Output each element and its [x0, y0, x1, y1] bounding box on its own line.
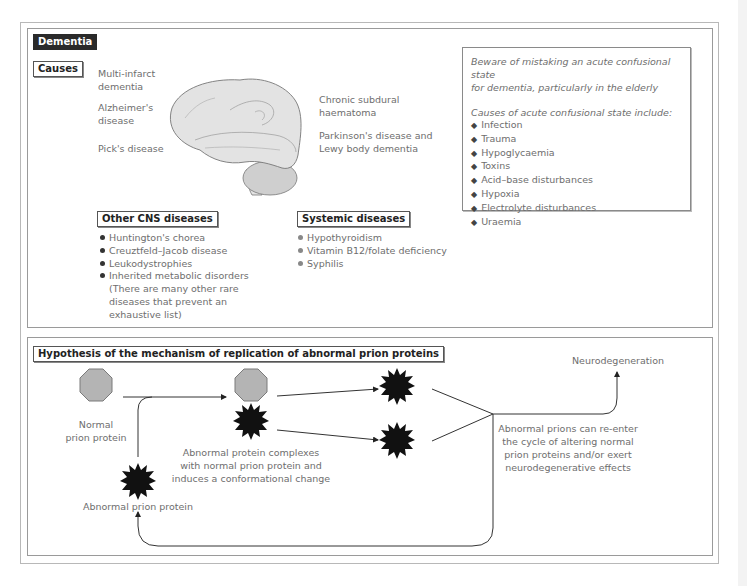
bullet-icon [100, 248, 105, 253]
bullet-icon [298, 261, 303, 266]
complex-label-3: induces a conformational change [166, 472, 336, 485]
list-item: ◆Acid–base disturbances [471, 174, 682, 188]
list-note: (There are many other rare [100, 283, 249, 296]
arrow-complex-to-top-star [277, 389, 378, 396]
complex-normal-prion-octagon [235, 369, 267, 401]
diamond-bullet-icon: ◆ [471, 190, 477, 199]
normal-prion-octagon [80, 369, 112, 401]
reenter-label-1: Abnormal prions can re-enter [498, 422, 638, 435]
list-note: diseases that prevent an [100, 296, 249, 309]
list-item: Creuztfeld–Jacob disease [100, 245, 249, 258]
systemic-title: Systemic diseases [297, 211, 410, 227]
arrow-to-neurodegeneration [493, 372, 617, 414]
causes-label: Causes [33, 61, 83, 77]
normal-prion-label-1: Normal [66, 418, 126, 431]
acute-confusion-info-box: Beware of mistaking an acute confusional… [462, 47, 691, 211]
label-multi-infarct: Multi-infarct [98, 67, 155, 80]
label-parkinsons-2: Lewy body dementia [319, 142, 418, 155]
acute-causes-list: ◆Infection ◆Trauma ◆Hypoglycaemia ◆Toxin… [471, 119, 682, 229]
list-item: ◆Infection [471, 119, 682, 133]
arrow-abnormal-to-complex [138, 397, 152, 457]
reenter-label-2: the cycle of altering normal [498, 435, 638, 448]
diamond-bullet-icon: ◆ [471, 218, 477, 227]
line-bottom-star-to-junction [432, 414, 493, 441]
list-note: exhaustive list) [100, 309, 249, 322]
complex-label-2: with normal prion protein and [176, 459, 326, 472]
label-subdural-2: haematoma [319, 106, 376, 119]
bullet-icon [100, 261, 105, 266]
brain-illustration [170, 79, 301, 195]
warning-line-2: for dementia, particularly in the elderl… [471, 81, 682, 94]
top-right-abnormal-prion-star-icon [379, 368, 415, 405]
abnormal-prion-star-icon [120, 463, 156, 500]
neurodegeneration-label: Neurodegeneration [572, 354, 664, 367]
label-alzheimers: Alzheimer's [98, 101, 153, 114]
list-item: Syphilis [298, 258, 447, 271]
list-item: ◆Toxins [471, 160, 682, 174]
diamond-bullet-icon: ◆ [471, 121, 477, 130]
other-cns-title: Other CNS diseases [97, 211, 218, 227]
bottom-right-abnormal-prion-star-icon [379, 422, 415, 459]
list-item: ◆Uraemia [471, 216, 682, 230]
list-item: ◆Trauma [471, 133, 682, 147]
label-multi-infarct-2: dementia [98, 80, 143, 93]
abnormal-prion-label: Abnormal prion protein [78, 500, 198, 513]
list-item: Huntington's chorea [100, 232, 249, 245]
reenter-label-3: prion proteins and/or exert [498, 448, 638, 461]
bullet-icon [298, 248, 303, 253]
complex-label-1: Abnormal protein complexes [176, 446, 326, 459]
diamond-bullet-icon: ◆ [471, 204, 477, 213]
list-item: Vitamin B12/folate deficiency [298, 245, 447, 258]
list-item: Leukodystrophies [100, 258, 249, 271]
list-item: Inherited metabolic disorders [100, 270, 249, 283]
diamond-bullet-icon: ◆ [471, 176, 477, 185]
label-alzheimers-2: disease [98, 114, 134, 127]
list-item: ◆Hypoxia [471, 188, 682, 202]
systemic-list: Hypothyroidism Vitamin B12/folate defici… [298, 232, 447, 270]
normal-prion-label-2: prion protein [56, 431, 136, 444]
arrow-complex-to-bottom-star [277, 430, 378, 440]
list-item: ◆Hypoglycaemia [471, 147, 682, 161]
diamond-bullet-icon: ◆ [471, 135, 477, 144]
dementia-title: Dementia [33, 34, 97, 50]
bullet-icon [100, 235, 105, 240]
diamond-bullet-icon: ◆ [471, 149, 477, 158]
label-subdural: Chronic subdural [319, 93, 400, 106]
line-top-star-to-junction [432, 389, 493, 414]
bullet-icon [298, 235, 303, 240]
complex-abnormal-prion-star-icon [233, 403, 269, 440]
list-item: ◆Electrolyte disturbances [471, 202, 682, 216]
reenter-label-4: neurodegenerative effects [498, 461, 638, 474]
bullet-icon [100, 273, 105, 278]
list-item: Hypothyroidism [298, 232, 447, 245]
prion-panel-title: Hypothesis of the mechanism of replicati… [33, 346, 444, 362]
warning-line-1: Beware of mistaking an acute confusional… [471, 55, 682, 81]
other-cns-list: Huntington's chorea Creuztfeld–Jacob dis… [100, 232, 249, 322]
diamond-bullet-icon: ◆ [471, 162, 477, 171]
label-parkinsons: Parkinson's disease and [319, 129, 433, 142]
causes-heading: Causes of acute confusional state includ… [471, 106, 682, 119]
label-picks: Pick's disease [98, 142, 164, 155]
